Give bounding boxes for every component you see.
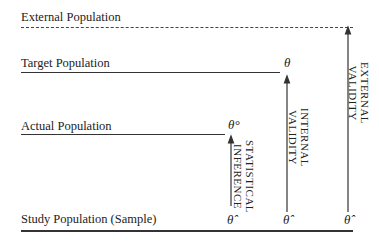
internal-validity-label: INTERNAL VALIDITY [287,108,311,167]
statistical-inference-label: STATISTICAL INFERENCE [232,140,256,213]
external-validity-label: EXTERNAL VALIDITY [347,62,371,124]
arrowhead-icon [346,27,351,34]
arrows-layer [0,0,379,241]
arrowhead-icon [285,76,290,83]
